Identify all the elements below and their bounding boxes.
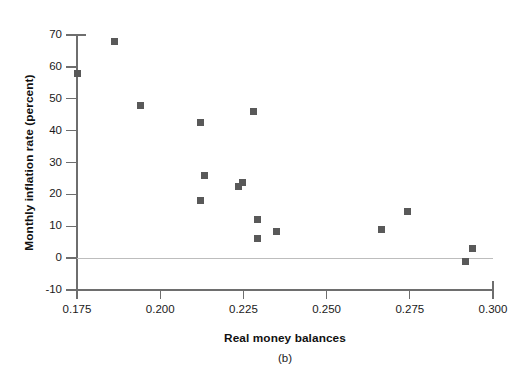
x-axis-tick xyxy=(243,290,244,299)
y-axis-tick-label: 40 xyxy=(0,125,62,136)
y-axis-tick-label: 60 xyxy=(0,61,62,72)
x-axis-tick xyxy=(76,290,77,299)
y-axis-tick xyxy=(66,257,77,258)
x-axis-tick-label: 0.200 xyxy=(125,303,195,316)
y-axis-top-cap xyxy=(77,34,86,35)
x-axis-tick-label: 0.225 xyxy=(208,303,278,316)
x-axis-tick-label: 0.250 xyxy=(292,303,362,316)
y-axis-tick xyxy=(66,34,77,35)
data-point xyxy=(250,108,257,115)
data-point xyxy=(254,216,261,223)
y-axis-tick xyxy=(66,226,77,227)
x-axis-tick-label: 0.300 xyxy=(458,303,525,316)
data-point xyxy=(462,258,469,265)
y-axis-tick-label: 10 xyxy=(0,220,62,231)
data-point xyxy=(74,70,81,77)
data-point xyxy=(378,226,385,233)
x-axis-tick xyxy=(160,290,161,299)
data-point xyxy=(273,228,280,235)
y-axis-tick xyxy=(66,194,77,195)
x-axis-tick-label: 0.275 xyxy=(375,303,445,316)
y-axis-tick xyxy=(66,162,77,163)
data-point xyxy=(111,38,118,45)
x-axis-tick xyxy=(409,290,410,299)
y-axis-tick xyxy=(66,98,77,99)
data-point xyxy=(404,208,411,215)
y-axis-tick-label: 70 xyxy=(0,29,62,40)
y-axis-tick-label: 20 xyxy=(0,188,62,199)
panel-caption: (b) xyxy=(77,352,493,364)
x-axis-line xyxy=(76,289,494,291)
y-axis-tick-label: 0 xyxy=(0,252,62,263)
scatter-plot-figure: Monthly inflation rate (percent) -100102… xyxy=(0,0,525,375)
x-axis-tick-label: 0.175 xyxy=(42,303,112,316)
x-axis-right-cap xyxy=(492,281,493,290)
data-point xyxy=(469,245,476,252)
x-axis-tick xyxy=(492,290,493,299)
data-point xyxy=(201,172,208,179)
data-point xyxy=(137,102,144,109)
x-axis-label: Real money balances xyxy=(77,331,493,345)
data-point xyxy=(197,197,204,204)
data-point xyxy=(254,235,261,242)
data-point xyxy=(197,119,204,126)
y-axis-tick-label: 30 xyxy=(0,157,62,168)
zero-reference-line xyxy=(77,258,493,259)
data-point xyxy=(239,179,246,186)
y-axis-tick xyxy=(66,66,77,67)
y-axis-tick xyxy=(66,130,77,131)
x-axis-tick xyxy=(326,290,327,299)
y-axis-tick-label: -10 xyxy=(0,284,62,295)
y-axis-tick-label: 50 xyxy=(0,93,62,104)
